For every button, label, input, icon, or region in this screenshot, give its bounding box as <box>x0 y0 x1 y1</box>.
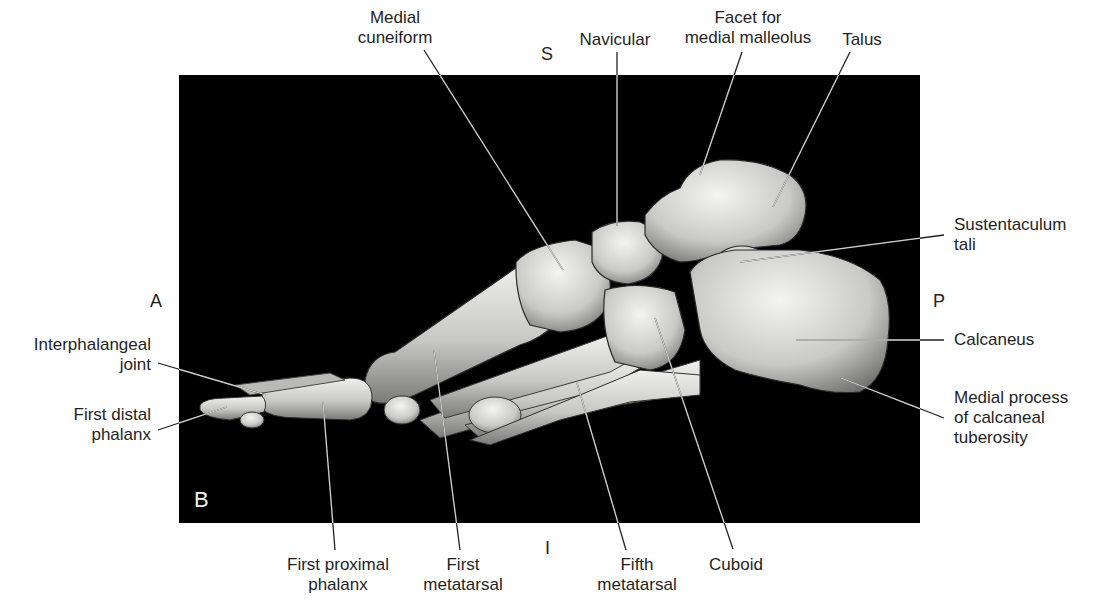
foot-ct-figure: B S I A P Medial cuneiform Navicular Fac… <box>0 0 1097 610</box>
leader-line-talus <box>773 52 850 207</box>
orientation-posterior: P <box>933 291 945 311</box>
leader-line-fifth-metatarsal <box>577 383 626 550</box>
label-navicular: Navicular <box>580 30 651 50</box>
leader-line-cuboid <box>655 318 733 549</box>
label-interphalangeal-joint: Interphalangeal joint <box>34 335 151 375</box>
label-medial-process-calcaneal-tuberosity: Medial process of calcaneal tuberosity <box>954 388 1068 448</box>
label-cuboid: Cuboid <box>709 555 763 575</box>
leader-line-medial-process-calcaneal-tuberosity <box>841 378 944 418</box>
label-medial-cuneiform: Medial cuneiform <box>358 8 433 48</box>
leader-line-interphalangeal-joint <box>158 363 266 395</box>
orientation-anterior: A <box>150 291 162 311</box>
label-first-distal-phalanx: First distal phalanx <box>74 405 151 445</box>
leader-line-facet-medial-malleolus <box>700 52 742 175</box>
orientation-superior: S <box>541 44 553 64</box>
label-first-proximal-phalanx: First proximal phalanx <box>287 555 389 595</box>
label-sustentaculum-tali: Sustentaculum tali <box>954 215 1066 255</box>
leader-line-medial-cuneiform <box>424 50 563 270</box>
orientation-inferior: I <box>545 538 550 558</box>
leader-line-sustentaculum-tali <box>740 235 944 262</box>
label-calcaneus: Calcaneus <box>954 330 1034 350</box>
label-first-metatarsal: First metatarsal <box>423 555 502 595</box>
label-fifth-metatarsal: Fifth metatarsal <box>597 555 676 595</box>
label-talus: Talus <box>842 30 882 50</box>
leader-line-first-distal-phalanx <box>158 407 227 430</box>
leader-line-first-metatarsal <box>434 350 460 550</box>
leader-line-first-proximal-phalanx <box>323 402 335 550</box>
panel-letter: B <box>194 487 209 513</box>
label-facet-medial-malleolus: Facet for medial malleolus <box>685 8 812 48</box>
